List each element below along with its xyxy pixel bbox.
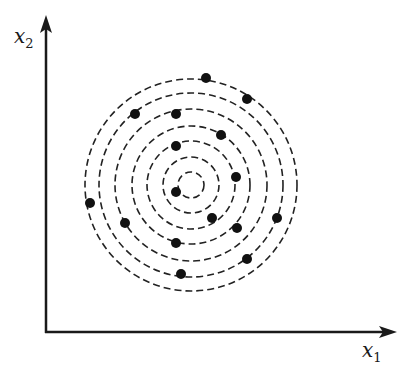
data-point (242, 94, 252, 104)
data-point (130, 109, 140, 119)
x-axis-label: x1 (362, 340, 382, 364)
dashed-circle-1 (178, 172, 204, 198)
data-point (171, 187, 181, 197)
data-point (216, 130, 226, 140)
x-axis-label-base: x (362, 338, 373, 362)
dashed-circle-7 (85, 79, 297, 291)
dashed-circle-5 (115, 109, 267, 261)
y-axis-label-subscript: 2 (25, 36, 33, 51)
y-axis-label: x2 (14, 26, 34, 50)
concentric-dashed-circles (85, 79, 297, 291)
dashed-circle-3 (147, 141, 235, 229)
data-point (207, 213, 217, 223)
y-axis-label-base: x (14, 24, 25, 48)
data-point (171, 141, 181, 151)
dashed-circle-6 (99, 93, 283, 277)
x-axis-label-subscript: 1 (373, 350, 381, 365)
data-point (85, 198, 95, 208)
data-point (176, 269, 186, 279)
data-point (232, 223, 242, 233)
diagram-canvas (0, 0, 409, 371)
data-points (85, 73, 282, 279)
data-point (171, 238, 181, 248)
data-point (201, 73, 211, 83)
dashed-circle-2 (163, 157, 219, 213)
data-point (231, 172, 241, 182)
data-point (272, 213, 282, 223)
data-point (242, 254, 252, 264)
data-point (171, 109, 181, 119)
data-point (120, 218, 130, 228)
